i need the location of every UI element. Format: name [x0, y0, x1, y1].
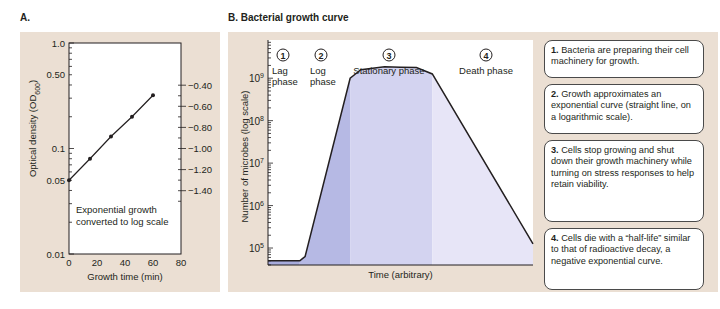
phase-number: 3: [386, 51, 391, 61]
note-number: 2.: [551, 89, 559, 99]
phase-name: Log: [310, 65, 326, 76]
note-3: 3. Cells stop growing and shut down thei…: [544, 140, 704, 222]
note-2: 2. Growth approximates an exponential cu…: [544, 84, 704, 134]
phase-name: Lag: [272, 65, 288, 76]
phase-number: 1: [280, 51, 285, 61]
phase-number: 4: [483, 51, 488, 61]
y-tick-label: 107: [249, 157, 264, 169]
note-number: 4.: [551, 233, 559, 243]
phase-number: 2: [318, 51, 323, 61]
y-tick-label: 109: [249, 72, 264, 84]
phase-name: phase: [310, 76, 336, 87]
note-4: 4. Cells die with a “half-life” similar …: [544, 228, 704, 290]
x-axis-label: Time (arbitrary): [368, 269, 433, 280]
note-text: Bacteria are preparing their cell machin…: [551, 45, 689, 66]
note-number: 1.: [551, 45, 559, 55]
phase-name: phase: [272, 76, 298, 87]
phase-name: Stationary phase: [353, 65, 424, 76]
phase-name: Death phase: [459, 65, 513, 76]
y-tick-label: 105: [249, 242, 264, 254]
note-number: 3.: [551, 145, 559, 155]
note-text: Cells stop growing and shut down their g…: [551, 145, 694, 189]
y-axis-label: Number of microbes (log scale): [239, 91, 250, 223]
y-tick-label: 106: [249, 200, 264, 212]
note-1: 1. Bacteria are preparing their cell mac…: [544, 40, 704, 78]
note-text: Growth approximates an exponential curve…: [551, 89, 691, 122]
y-tick-label: 108: [249, 115, 264, 127]
note-text: Cells die with a “half-life” similar to …: [551, 233, 690, 266]
